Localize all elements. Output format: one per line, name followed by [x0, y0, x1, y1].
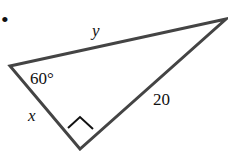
right-leg-label: 20	[153, 90, 170, 109]
right-angle-marker	[68, 117, 93, 129]
angle-label: 60°	[30, 69, 54, 88]
hypotenuse-label: y	[90, 21, 100, 40]
bullet-marker: •	[1, 7, 9, 32]
triangle-diagram: • y x 20 60°	[0, 0, 228, 151]
left-leg-label: x	[27, 106, 36, 125]
